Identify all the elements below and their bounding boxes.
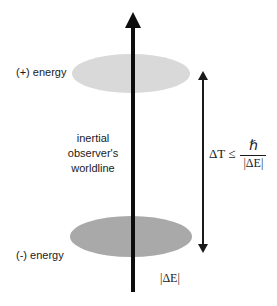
worldline-label-line-3: worldline bbox=[62, 161, 124, 176]
time-interval-arrow-head-up-icon bbox=[198, 71, 208, 80]
inequality-fraction: ℏ |ΔE| bbox=[240, 139, 266, 169]
time-energy-inequality: ΔT ≤ ℏ |ΔE| bbox=[209, 139, 266, 169]
worldline-label-line-1: inertial bbox=[62, 131, 124, 146]
negative-energy-label: (-) energy bbox=[16, 249, 64, 262]
energy-uncertainty-label: |ΔE| bbox=[160, 272, 180, 285]
time-interval-arrow-stem bbox=[202, 77, 204, 247]
positive-energy-label: (+) energy bbox=[16, 66, 66, 79]
time-interval-arrow-head-down-icon bbox=[198, 244, 208, 253]
worldline-arrow-stem bbox=[131, 20, 135, 292]
inequality-left-side: ΔT ≤ bbox=[209, 146, 235, 162]
fraction-numerator-hbar: ℏ bbox=[246, 139, 261, 155]
worldline-arrow-head-icon bbox=[125, 12, 141, 28]
energy-worldline-diagram: (+) energy (-) energy inertial observer'… bbox=[0, 0, 277, 306]
fraction-denominator-delta-e: |ΔE| bbox=[240, 156, 266, 170]
worldline-label-line-2: observer's bbox=[62, 146, 124, 161]
worldline-label: inertial observer's worldline bbox=[62, 131, 124, 176]
